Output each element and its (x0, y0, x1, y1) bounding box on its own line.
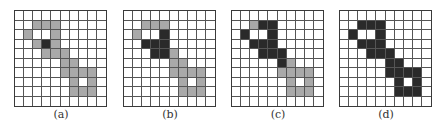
grid-cell (160, 21, 169, 31)
grid-cell (61, 21, 70, 31)
grid-cell (97, 21, 106, 31)
grid-cell (386, 59, 395, 69)
grid-cell (367, 87, 376, 97)
grid-cell (250, 97, 259, 107)
grid-cell (179, 11, 188, 21)
grid-cell (70, 30, 79, 40)
grid-cell (278, 21, 287, 31)
grid-cell (413, 21, 422, 31)
grid-cell (24, 30, 33, 40)
grid-cell (386, 11, 395, 21)
grid-cell (241, 40, 250, 50)
grid-cell (79, 30, 88, 40)
grid-cell (33, 49, 42, 59)
grid-cell (170, 21, 179, 31)
grid-cell (259, 68, 268, 78)
grid-cell (61, 87, 70, 97)
grid-cell (97, 78, 106, 88)
grid-cell (33, 68, 42, 78)
grid-cell (268, 11, 277, 21)
grid-cell (340, 40, 349, 50)
grid-cell (278, 49, 287, 59)
grid-cell (179, 68, 188, 78)
grid-cell (367, 59, 376, 69)
grid-cell (268, 59, 277, 69)
grid-cell (305, 21, 314, 31)
grid-cell (422, 78, 431, 88)
grid-cell (404, 87, 413, 97)
grid-cell (349, 30, 358, 40)
grid-cell (170, 40, 179, 50)
grid-cell (188, 87, 197, 97)
grid-cell (170, 59, 179, 69)
grid-cell (305, 78, 314, 88)
grid-cell (160, 40, 169, 50)
grid-cell (197, 49, 206, 59)
grid-cell (386, 78, 395, 88)
grid-cell (250, 30, 259, 40)
grid-cell (340, 21, 349, 31)
grid-cell (142, 68, 151, 78)
grid-cell (51, 49, 60, 59)
grid-cell (70, 11, 79, 21)
grid-cell (241, 68, 250, 78)
grid-cell (15, 87, 24, 97)
grid-cell (151, 49, 160, 59)
grid-cell (197, 21, 206, 31)
grid-cell (232, 11, 241, 21)
grid-cell (51, 11, 60, 21)
grid-cell (358, 40, 367, 50)
grid-cell (133, 78, 142, 88)
grid-cell (42, 68, 51, 78)
grid-cell (314, 87, 323, 97)
grid-cell (349, 78, 358, 88)
grid-cell (349, 59, 358, 69)
grid-cell (404, 59, 413, 69)
grid-cell (88, 49, 97, 59)
grid-cell (88, 21, 97, 31)
grid-cell (358, 49, 367, 59)
grid-cell (124, 30, 133, 40)
grid-cell (287, 87, 296, 97)
grid-cell (206, 11, 215, 21)
grid-cell (133, 97, 142, 107)
grid-cell (33, 11, 42, 21)
grid-cell (42, 78, 51, 88)
grid-cell (97, 40, 106, 50)
grid-cell (376, 21, 385, 31)
grid-cell (314, 30, 323, 40)
grid-a (14, 10, 107, 107)
grid-cell (296, 68, 305, 78)
panel-a (14, 10, 108, 107)
grid-cell (188, 68, 197, 78)
grid-cell (259, 78, 268, 88)
grid-cell (305, 49, 314, 59)
grid-cell (70, 97, 79, 107)
grid-cell (151, 87, 160, 97)
grid-cell (404, 78, 413, 88)
grid-cell (79, 49, 88, 59)
grid-cell (413, 11, 422, 21)
grid-cell (367, 40, 376, 50)
grid-cell (241, 49, 250, 59)
grid-cell (197, 30, 206, 40)
grid-cell (314, 59, 323, 69)
grid-cell (296, 11, 305, 21)
grid-cell (404, 40, 413, 50)
grid-cell (386, 30, 395, 40)
grid-cell (386, 87, 395, 97)
grid-cell (349, 11, 358, 21)
grid-cell (404, 68, 413, 78)
grid-cell (376, 68, 385, 78)
grid-cell (61, 78, 70, 88)
grid-cell (33, 40, 42, 50)
grid-cell (376, 30, 385, 40)
grid-cell (124, 68, 133, 78)
grid-cell (51, 97, 60, 107)
grid-c (231, 10, 324, 107)
grid-cell (287, 78, 296, 88)
grid-cell (232, 40, 241, 50)
grid-cell (268, 97, 277, 107)
grid-cell (386, 40, 395, 50)
grid-cell (287, 11, 296, 21)
